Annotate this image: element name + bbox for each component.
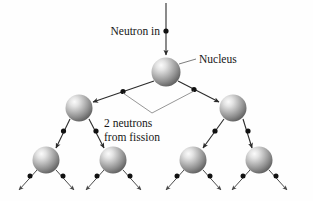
neutron-dot-out-4 <box>128 174 133 179</box>
neutron-dot-out-1 <box>28 174 33 179</box>
nucleus-gen3-4 <box>246 147 273 174</box>
neutron-dot-gen2-r1 <box>212 128 217 133</box>
label-neutron-in: Neutron in <box>110 25 160 37</box>
nucleus-gen3-3 <box>180 147 207 174</box>
neutron-dot-gen2-l1 <box>61 128 66 133</box>
neutron-dot-incoming <box>163 28 168 33</box>
nucleus-gen3-2 <box>100 147 127 174</box>
neutron-dot-out-8 <box>274 174 279 179</box>
neutron-dot-out-7 <box>241 174 246 179</box>
nucleus-gen1 <box>152 58 181 87</box>
chain-reaction-svg: Neutron in Nucleus 2 neutrons from fissi… <box>0 0 313 201</box>
label-two-neutrons-line2: from fission <box>104 131 160 143</box>
neutron-dot-out-5 <box>175 174 180 179</box>
label-two-neutrons-line1: 2 neutrons <box>104 117 153 129</box>
label-nucleus: Nucleus <box>199 53 237 65</box>
fission-diagram-figure: Neutron in Nucleus 2 neutrons from fissi… <box>0 0 313 201</box>
neutron-dot-out-6 <box>208 174 213 179</box>
neutron-dot-gen2-l2 <box>93 128 98 133</box>
neutron-dot-out-3 <box>95 174 100 179</box>
neutron-dot-gen2-r2 <box>245 128 250 133</box>
nucleus-gen3-1 <box>33 147 60 174</box>
nucleus-gen2-right <box>220 95 247 122</box>
nucleus-gen2-left <box>66 95 93 122</box>
neutron-dot-out-2 <box>61 174 66 179</box>
